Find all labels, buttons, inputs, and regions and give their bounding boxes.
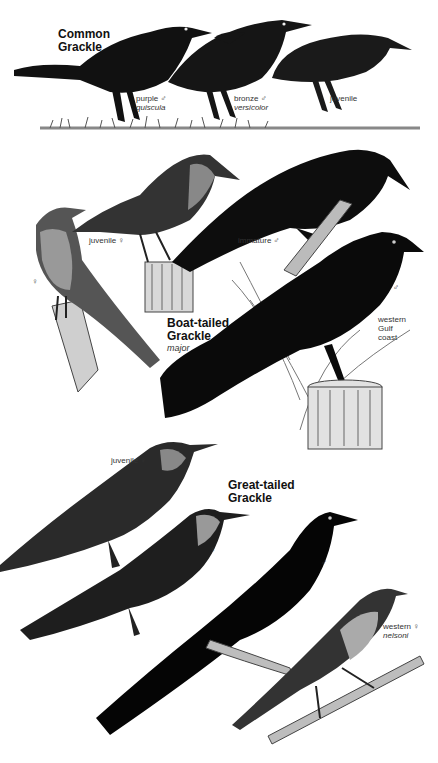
- field-guide-plate: Common Grackle Boat-tailed Grackle major…: [0, 0, 438, 763]
- title-line: Grackle: [58, 41, 110, 54]
- form-label: coast: [378, 333, 406, 342]
- label-juvenile: juvenile: [330, 94, 357, 103]
- subspecies-label: quiscula: [136, 103, 166, 112]
- species-title-great-tailed-grackle: Great-tailed Grackle: [228, 479, 295, 505]
- label-great-tailed-western-female: western ♀ nelsoni: [383, 622, 419, 640]
- title-line: Grackle: [167, 330, 229, 343]
- species-title-boat-tailed-grackle: Boat-tailed Grackle major: [167, 317, 229, 353]
- label-boat-tailed-juvenile-female: juvenile ♀: [89, 236, 124, 245]
- label-great-tailed-juvenile-female: juvenile ♀: [111, 456, 146, 465]
- form-label: western: [378, 315, 406, 324]
- label-boat-tailed-male: ♂: [393, 283, 399, 292]
- post-right: [308, 380, 382, 449]
- label-great-tailed-male: ♂: [321, 558, 327, 567]
- grackle-illustrations: [0, 0, 438, 763]
- subspecies-label: versicolor: [234, 103, 268, 112]
- form-label: Gulf: [378, 324, 406, 333]
- label-bronze-male: bronze ♂ versicolor: [234, 94, 268, 112]
- label-great-tailed-female: ♀: [210, 545, 216, 554]
- form-label: western ♀: [383, 622, 419, 631]
- species-title-common-grackle: Common Grackle: [58, 28, 110, 54]
- form-label: bronze ♂: [234, 94, 267, 103]
- label-western-gulf-coast: western Gulf coast: [378, 315, 406, 342]
- subspecies-label: nelsoni: [383, 631, 419, 640]
- form-label: juvenile: [330, 94, 357, 103]
- label-purple-male: purple ♂ quiscula: [136, 94, 166, 112]
- grass-patch: [40, 116, 420, 128]
- label-boat-tailed-female: ♀: [32, 277, 38, 286]
- form-label: purple ♂: [136, 94, 166, 103]
- subspecies-label: major: [167, 343, 229, 353]
- title-line: Grackle: [228, 492, 295, 505]
- label-boat-tailed-immature-male: immature ♂: [238, 236, 280, 245]
